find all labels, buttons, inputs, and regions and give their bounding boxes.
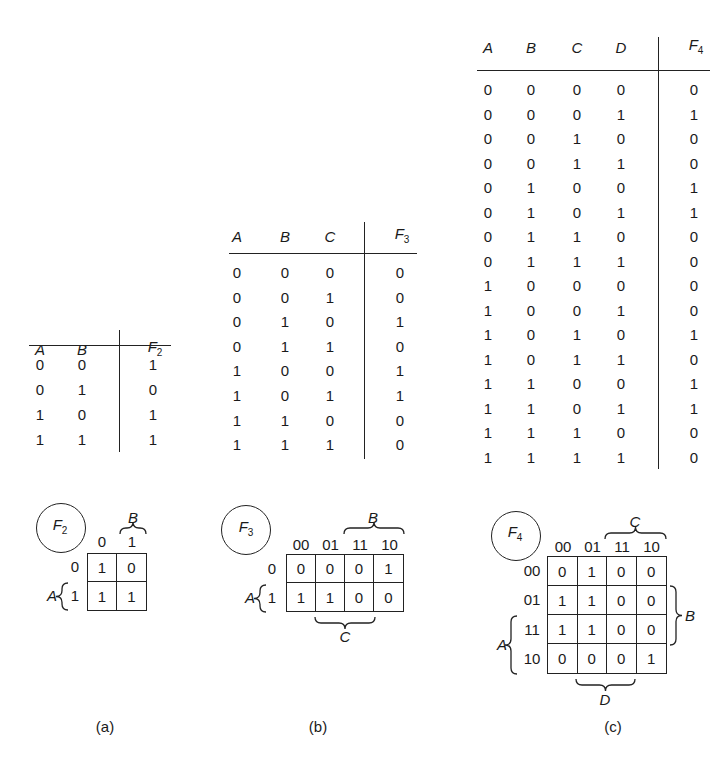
caption-c: (c) — [604, 718, 622, 735]
kmap-c-bottom-brace — [0, 0, 726, 763]
kmap-c-bottom-var: D — [600, 692, 611, 708]
